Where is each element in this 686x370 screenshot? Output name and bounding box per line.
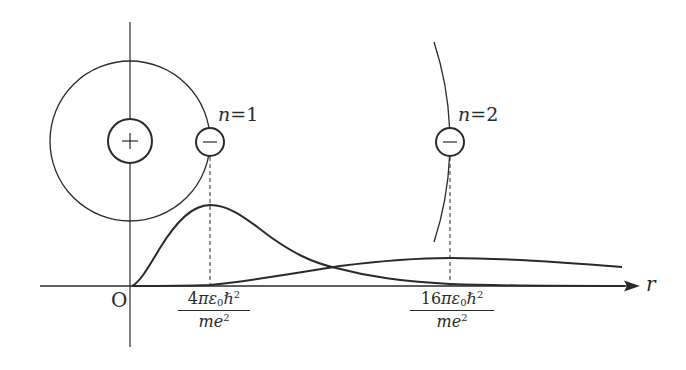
origin-label: O [111, 288, 127, 312]
equals-sign: = [230, 103, 246, 125]
n-symbol: n [218, 103, 230, 125]
fraction-denominator: me2 [410, 311, 494, 331]
orbit-n2-arc [434, 42, 450, 128]
n2-label: n=2 [458, 103, 498, 125]
n-value: 2 [486, 103, 498, 125]
n-value: 1 [246, 103, 258, 125]
radius-n2-fraction: 16πε0ℏ2 me2 [410, 289, 494, 331]
n-symbol: n [458, 103, 470, 125]
orbit-n2-arc-lower [434, 156, 450, 242]
curve-n2 [132, 258, 622, 286]
equals-sign: = [470, 103, 486, 125]
curve-n1 [132, 205, 625, 286]
n1-label: n=1 [218, 103, 258, 125]
fraction-numerator: 16πε0ℏ2 [410, 289, 494, 311]
bohr-diagram [0, 0, 686, 370]
fraction-denominator: me2 [178, 311, 250, 331]
fraction-numerator: 4πε0ℏ2 [178, 289, 250, 311]
radius-n1-fraction: 4πε0ℏ2 me2 [178, 289, 250, 331]
r-axis-label: r [646, 272, 656, 296]
